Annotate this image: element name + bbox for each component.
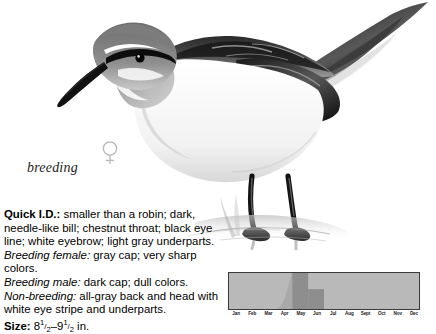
month-label: Feb (244, 311, 260, 316)
chart-plot-area (228, 272, 420, 310)
chart-bar (308, 289, 324, 309)
description-block: Quick I.D.: smaller than a robin; dark, … (4, 208, 228, 334)
size-max-fraction: 1/2 (63, 322, 74, 331)
female-symbol-icon (99, 140, 121, 166)
breeding-male-text: dark cap; dull colors. (81, 276, 189, 288)
eye (135, 53, 144, 62)
size-unit: in. (74, 319, 89, 331)
month-label: Jan (228, 311, 244, 316)
chart-month-axis: Jan Feb Mar Apr May Jun Jul Aug Sept Oct… (228, 311, 422, 316)
head (93, 22, 177, 90)
bill (57, 62, 108, 107)
month-label: Aug (341, 311, 357, 316)
chart-bar (292, 273, 308, 309)
non-breeding-label: Non-breeding: (4, 290, 76, 302)
month-label: Sept (357, 311, 373, 316)
chart-bars (229, 273, 419, 309)
month-label: Apr (277, 311, 293, 316)
seasonal-occurrence-chart: Jan Feb Mar Apr May Jun Jul Aug Sept Oct… (228, 272, 422, 316)
size-label: Size: (4, 319, 31, 331)
month-label: Dec (406, 311, 422, 316)
breeding-female-label: Breeding female: (4, 249, 90, 261)
breeding-male-line: Breeding male: dark cap; dull colors. (4, 276, 228, 290)
size-min-fraction: 1/2 (40, 322, 51, 331)
breeding-male-label: Breeding male: (4, 276, 81, 288)
month-label: Oct (374, 311, 390, 316)
quick-id-label: Quick I.D.: (4, 208, 60, 220)
breeding-female-line: Breeding female: gray cap; very sharp co… (4, 249, 228, 276)
month-label: Jul (325, 311, 341, 316)
size-line: Size: 81/2–91/2 in. (4, 317, 228, 334)
field-guide-page: breeding Quick I.D.: smaller than a robi… (0, 0, 436, 334)
chart-lead-in (277, 273, 293, 309)
month-label: Nov (390, 311, 406, 316)
non-breeding-line: Non-breeding: all-gray back and head wit… (4, 290, 228, 317)
month-label: Jun (309, 311, 325, 316)
month-label: May (293, 311, 309, 316)
month-label: Mar (260, 311, 276, 316)
quick-id-line: Quick I.D.: smaller than a robin; dark, … (4, 208, 228, 249)
breeding-caption: breeding (27, 160, 78, 176)
